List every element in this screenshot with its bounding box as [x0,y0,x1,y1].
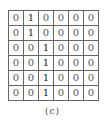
matrix-row: 001000 [9,41,99,56]
binary-matrix-grid: 010000010000001000001000001000001000 [8,10,99,101]
matrix-cell: 0 [54,56,69,71]
matrix-cell: 0 [84,41,99,56]
matrix-cell: 1 [39,56,54,71]
matrix-cell: 0 [84,71,99,86]
matrix-cell: 0 [9,71,24,86]
matrix-cell: 0 [9,56,24,71]
matrix-cell: 0 [69,86,84,101]
matrix-cell: 0 [24,86,39,101]
matrix-cell: 0 [69,41,84,56]
matrix-cell: 1 [24,26,39,41]
matrix-cell: 0 [69,11,84,26]
matrix-cell: 0 [54,41,69,56]
matrix-cell: 0 [69,56,84,71]
matrix-cell: 0 [24,41,39,56]
matrix-cell: 1 [39,41,54,56]
matrix-cell: 0 [9,26,24,41]
matrix-cell: 0 [69,26,84,41]
matrix-cell: 0 [54,26,69,41]
matrix-cell: 1 [39,71,54,86]
matrix-cell: 0 [54,86,69,101]
matrix-cell: 0 [9,86,24,101]
matrix-body: 010000010000001000001000001000001000 [9,11,99,101]
matrix-row: 001000 [9,86,99,101]
matrix-cell: 0 [9,41,24,56]
matrix-cell: 0 [24,56,39,71]
figure-caption: (c) [0,106,105,116]
matrix-cell: 0 [84,11,99,26]
matrix-cell: 0 [69,71,84,86]
matrix-cell: 0 [84,56,99,71]
matrix-row: 001000 [9,71,99,86]
matrix-cell: 0 [39,11,54,26]
matrix-cell: 0 [24,71,39,86]
matrix-cell: 0 [39,26,54,41]
matrix-row: 010000 [9,26,99,41]
matrix-cell: 0 [84,86,99,101]
matrix-cell: 0 [54,71,69,86]
matrix-cell: 1 [24,11,39,26]
matrix-cell: 0 [54,11,69,26]
matrix-cell: 0 [84,26,99,41]
matrix-cell: 0 [9,11,24,26]
matrix-cell: 1 [39,86,54,101]
matrix-row: 010000 [9,11,99,26]
matrix-row: 001000 [9,56,99,71]
